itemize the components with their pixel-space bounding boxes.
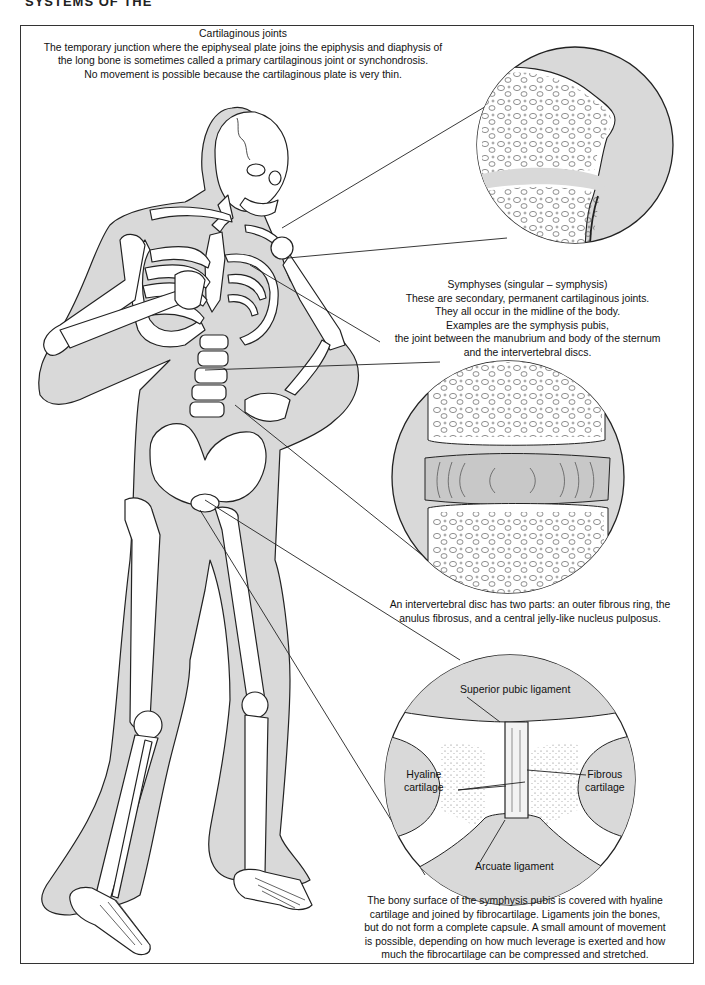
arcuate-ligament-label: Arcuate ligament [475, 860, 554, 873]
epiphyseal-plate-detail [470, 47, 673, 260]
label-line: Hyaline [406, 768, 441, 780]
anulus-fibrosus [425, 454, 610, 505]
left-foot [70, 888, 150, 955]
caption-title: Cartilaginous joints [28, 27, 458, 41]
caption-line: They all occur in the midline of the bod… [380, 305, 675, 319]
caption-line: Examples are the symphysis pubis, [380, 319, 675, 333]
anatomy-illustration [0, 0, 705, 985]
caption-line: anulus fibrosus, and a central jelly-lik… [370, 612, 690, 626]
caption-line: much the fibrocartilage can be compresse… [340, 948, 690, 962]
intervertebral-disc-detail [392, 360, 624, 600]
label-line: cartilage [404, 781, 444, 793]
caption-title: Symphyses (singular – symphysis) [380, 278, 675, 292]
cartilaginous-joints-caption: Cartilaginous joints The temporary junct… [28, 27, 458, 81]
symphysis-pubis-caption: The bony surface of the symphysis pubis … [340, 894, 690, 962]
hyaline-cartilage-label: Hyaline cartilage [404, 768, 444, 794]
label-line: Fibrous [587, 768, 622, 780]
caption-line: An intervertebral disc has two parts: an… [370, 598, 690, 612]
upper-bone [380, 640, 640, 722]
intervertebral-disc-caption: An intervertebral disc has two parts: an… [370, 598, 690, 625]
caption-line: These are secondary, permanent cartilagi… [380, 292, 675, 306]
label-line: cartilage [585, 781, 625, 793]
caption-line: and the intervertebral discs. [380, 346, 675, 360]
caption-line: the joint between the manubrium and body… [380, 332, 675, 346]
superior-pubic-ligament-label: Superior pubic ligament [460, 683, 570, 696]
caption-line: The temporary junction where the epiphys… [28, 41, 458, 55]
caption-line: The bony surface of the symphysis pubis … [340, 894, 690, 908]
symphyses-caption: Symphyses (singular – symphysis) These a… [380, 278, 675, 360]
fibrous-cartilage-band [505, 722, 528, 818]
caption-line: No movement is possible because the cart… [28, 68, 458, 82]
caption-line: cartilage and joined by fibrocartilage. … [340, 908, 690, 922]
caption-line: is possible, depending on how much lever… [340, 935, 690, 949]
caption-line: the long bone is sometimes called a prim… [28, 54, 458, 68]
skeleton-figure [39, 108, 359, 955]
caption-line: but do not form a complete capsule. A sm… [340, 921, 690, 935]
fibrous-cartilage-label: Fibrous cartilage [585, 768, 625, 794]
